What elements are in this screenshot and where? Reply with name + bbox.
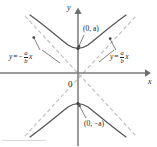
left-eq-minus: −	[19, 53, 23, 61]
hyperbola-graph-canvas	[0, 0, 157, 147]
left-eq-numerator: a	[24, 50, 28, 57]
leader-dot-upper-vertex	[78, 45, 81, 48]
asymptote-group	[25, 16, 136, 136]
right-eq-denominator: b	[120, 57, 124, 65]
x-axis-label: x	[148, 78, 152, 86]
right-eq-variable: x	[125, 53, 128, 61]
left-eq-fraction: a b	[24, 50, 28, 64]
left-eq-sign: =	[13, 53, 17, 61]
axis-group	[0, 11, 146, 146]
upper-vertex-label: (0, a)	[83, 25, 99, 33]
right-eq-fraction: a b	[120, 50, 124, 64]
hyperbola-figure: y x 0 (0, a) (0, −a) y = − a b x y = a b…	[0, 0, 157, 147]
leader-lower-vertex	[80, 106, 87, 118]
left-eq-lhs: y	[9, 53, 12, 61]
leader-left-to-curve	[34, 38, 40, 50]
left-eq-denominator: b	[24, 57, 28, 65]
y-axis-arrowhead	[74, 8, 81, 15]
leader-right-to-curve	[110, 39, 116, 50]
right-asymptote-equation: y = a b x	[110, 50, 129, 64]
right-eq-sign: =	[114, 53, 118, 61]
right-eq-lhs: y	[110, 53, 113, 61]
leader-left-to-asymptote	[42, 50, 60, 63]
y-axis-label: y	[67, 4, 71, 12]
origin-label: 0	[68, 80, 73, 89]
leader-upper-vertex	[79, 35, 84, 46]
leader-dot-right-curve	[109, 37, 112, 40]
right-eq-numerator: a	[120, 50, 124, 57]
x-axis-arrowhead	[145, 69, 151, 77]
left-eq-variable: x	[29, 53, 32, 61]
leader-dot-lower-vertex	[78, 105, 81, 108]
leader-dot-left-curve	[32, 36, 35, 39]
bottom-edge-artifact	[2, 140, 46, 141]
left-asymptote-equation: y = − a b x	[9, 50, 32, 64]
lower-vertex-label: (0, −a)	[84, 120, 104, 128]
